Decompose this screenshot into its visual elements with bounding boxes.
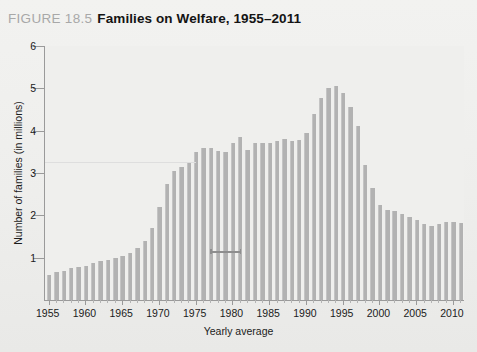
y-axis-title: Number of families (in millions): [12, 101, 24, 245]
bar-2002: [392, 211, 396, 300]
x-axis-title: Yearly average: [0, 325, 477, 337]
x-axis-label-2005: 2005: [395, 307, 435, 319]
x-axis-minor-tick-1971: [166, 300, 167, 303]
bar-1964: [113, 258, 117, 300]
bar-1987: [282, 139, 286, 300]
x-axis-minor-tick-1991: [313, 300, 314, 303]
bar-1985: [268, 143, 272, 300]
x-axis-label-1975: 1975: [175, 307, 215, 319]
bar-1972: [172, 171, 176, 300]
bar-1957: [62, 271, 66, 300]
bar-1999: [370, 188, 374, 300]
x-axis-minor-tick-1961: [93, 300, 94, 303]
x-axis-minor-tick-1977: [210, 300, 211, 303]
x-axis-minor-tick-1969: [152, 300, 153, 303]
bar-1988: [290, 141, 294, 300]
x-axis-minor-tick-1964: [115, 300, 116, 303]
x-axis-tick-2005: [416, 300, 417, 305]
x-axis-minor-tick-1984: [262, 300, 263, 303]
x-axis-minor-tick-2008: [438, 300, 439, 303]
bar-1962: [98, 261, 102, 300]
bar-1993: [326, 88, 330, 300]
x-axis-minor-tick-2003: [402, 300, 403, 303]
x-axis-minor-tick-1957: [63, 300, 64, 303]
x-axis-minor-tick-1981: [240, 300, 241, 303]
x-axis-tick-1955: [49, 300, 50, 305]
bar-1984: [260, 143, 264, 300]
x-axis-label-1985: 1985: [248, 307, 288, 319]
bar-1981: [238, 137, 242, 300]
x-axis-minor-tick-1976: [203, 300, 204, 303]
x-axis-tick-1975: [196, 300, 197, 305]
bar-2004: [407, 217, 411, 300]
bar-1973: [179, 167, 183, 300]
x-axis-minor-tick-2001: [387, 300, 388, 303]
x-axis-minor-tick-1998: [365, 300, 366, 303]
x-axis-label-1955: 1955: [28, 307, 68, 319]
y-axis-label-5: 5: [14, 82, 36, 94]
bar-1966: [128, 253, 132, 300]
x-axis-minor-tick-1986: [277, 300, 278, 303]
bar-1995: [341, 93, 345, 300]
x-axis-minor-tick-1988: [291, 300, 292, 303]
y-axis-label-6: 6: [14, 40, 36, 52]
x-axis-minor-tick-1979: [225, 300, 226, 303]
bar-1956: [54, 272, 58, 300]
x-axis-minor-tick-1963: [107, 300, 108, 303]
x-axis-tick-1965: [122, 300, 123, 305]
x-axis-minor-tick-2011: [460, 300, 461, 303]
bar-1994: [334, 86, 338, 300]
x-axis-label-1960: 1960: [64, 307, 104, 319]
bar-1963: [106, 260, 110, 300]
figure-header: FIGURE 18.5Families on Welfare, 1955–201…: [8, 9, 468, 29]
x-axis-tick-1970: [159, 300, 160, 305]
x-axis-minor-tick-2006: [424, 300, 425, 303]
x-axis-tick-2010: [453, 300, 454, 305]
x-axis-label-1990: 1990: [285, 307, 325, 319]
bar-1990: [304, 133, 308, 300]
x-axis-minor-tick-1999: [372, 300, 373, 303]
x-axis-minor-tick-1997: [357, 300, 358, 303]
bar-2007: [429, 226, 433, 300]
marker-cap-left: [210, 249, 211, 254]
bar-1965: [120, 256, 124, 300]
x-axis-minor-tick-1978: [218, 300, 219, 303]
bar-1961: [91, 263, 95, 300]
bar-2005: [415, 220, 419, 300]
x-axis-minor-tick-1956: [56, 300, 57, 303]
bar-2008: [437, 224, 441, 300]
reference-line: [45, 162, 196, 163]
bar-1955: [47, 275, 51, 300]
bar-1960: [84, 266, 88, 300]
bar-2010: [451, 222, 455, 300]
x-axis-minor-tick-1982: [247, 300, 248, 303]
figure-container: FIGURE 18.5Families on Welfare, 1955–201…: [0, 0, 477, 352]
x-axis-minor-tick-1959: [78, 300, 79, 303]
bar-2001: [385, 210, 389, 300]
x-axis-minor-tick-1983: [255, 300, 256, 303]
x-axis-minor-tick-1966: [130, 300, 131, 303]
x-axis-minor-tick-2004: [409, 300, 410, 303]
bar-1979: [223, 152, 227, 300]
bar-1969: [150, 228, 154, 300]
bar-1968: [143, 241, 147, 300]
x-axis-minor-tick-1972: [174, 300, 175, 303]
chart-plot-frame: [44, 46, 464, 301]
figure-title: Families on Welfare, 1955–2011: [97, 11, 301, 26]
bar-1997: [356, 126, 360, 300]
x-axis-minor-tick-1958: [71, 300, 72, 303]
bar-1976: [201, 148, 205, 300]
bar-2006: [422, 224, 426, 300]
x-axis-tick-2000: [379, 300, 380, 305]
bar-1974: [187, 162, 191, 300]
bar-2003: [400, 214, 404, 300]
x-axis-minor-tick-1993: [328, 300, 329, 303]
bar-1989: [297, 140, 301, 300]
bar-1982: [245, 150, 249, 300]
x-axis-label-1965: 1965: [101, 307, 141, 319]
x-axis-minor-tick-1967: [137, 300, 138, 303]
x-axis-minor-tick-1974: [188, 300, 189, 303]
x-axis-minor-tick-1992: [321, 300, 322, 303]
bar-1971: [165, 184, 169, 300]
bar-1967: [135, 248, 139, 300]
